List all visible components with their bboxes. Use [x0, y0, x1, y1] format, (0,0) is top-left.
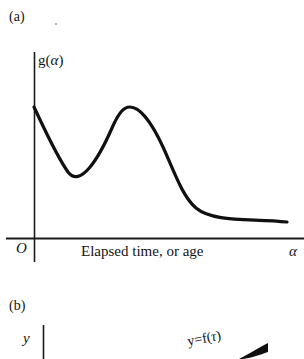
figure-page: (a) g(α) O Elapsed time, or age α (b) y …: [0, 0, 304, 359]
x-axis-label-a: Elapsed time, or age: [81, 243, 203, 260]
y-axis-label-a-prefix: g(: [38, 52, 51, 68]
x-axis-variable-a: α: [289, 243, 297, 260]
curve-g-alpha: [34, 107, 287, 222]
curve-label-b-prefix: y=f(: [186, 329, 213, 348]
panel-label-b: (b): [9, 298, 25, 314]
origin-label-a: O: [16, 240, 27, 257]
y-axis-label-a: g(α): [38, 52, 63, 69]
y-axis-label-a-suffix: ): [58, 52, 63, 68]
curve-f-tau: [239, 343, 268, 359]
y-axis-label-b: y: [23, 330, 30, 347]
